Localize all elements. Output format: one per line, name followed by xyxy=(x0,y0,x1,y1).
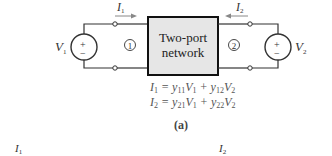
terminal-1-top xyxy=(113,22,117,26)
i1-label: I1 xyxy=(116,0,125,15)
figure-caption: (a) xyxy=(174,118,188,132)
bottom-i1-label: I1 xyxy=(14,142,23,156)
port1-number: 1 xyxy=(128,41,133,51)
source1-minus: − xyxy=(80,48,86,59)
i2-label: I2 xyxy=(235,0,244,15)
v2-label: V2 xyxy=(295,39,307,56)
i1-arrow-head xyxy=(131,14,137,19)
terminal-2-bottom xyxy=(248,66,252,70)
equation-1: I1 = y11V1 + y12V2 xyxy=(149,80,235,95)
network-label-line1: Two-port xyxy=(159,30,208,45)
terminal-1-bottom xyxy=(113,66,117,70)
right-top-wire xyxy=(252,24,278,34)
equation-2: I2 = y21V1 + y22V2 xyxy=(149,95,236,110)
terminal-2-top xyxy=(248,22,252,26)
network-label-line2: network xyxy=(162,45,205,60)
port2-number: 2 xyxy=(232,41,237,51)
left-top-wire xyxy=(84,24,113,34)
v1-label: V1 xyxy=(55,39,67,56)
i2-arrow-head xyxy=(225,14,231,19)
right-bottom-wire xyxy=(252,60,278,68)
two-port-diagram: + − V1 I1 1 Two-port network + − V2 I2 2… xyxy=(0,0,332,156)
source2-minus: − xyxy=(274,48,280,59)
left-bottom-wire xyxy=(84,60,113,68)
bottom-i2-label: I2 xyxy=(218,142,227,156)
